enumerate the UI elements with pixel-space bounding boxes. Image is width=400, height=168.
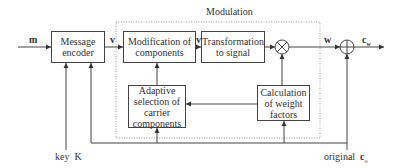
transformation-block: Transformation to signal	[201, 31, 265, 63]
signal-cw-label: cw	[362, 34, 371, 47]
original-label: original co	[324, 151, 368, 164]
modulation-group-label: Modulation	[206, 6, 253, 17]
block-diagram: Modulation Message encoder Modification …	[0, 0, 400, 168]
diagram-lines	[0, 0, 400, 168]
signal-v-label-1: v	[110, 34, 115, 45]
signal-m-label: m	[29, 34, 37, 45]
key-label: key K	[55, 151, 82, 162]
adaptive-selection-block: Adaptive selection of carrier components	[128, 85, 186, 128]
calculation-block: Calculation of weight factors	[257, 85, 310, 121]
signal-w-label: w	[324, 34, 331, 45]
signal-v-label-2: v	[196, 34, 201, 45]
message-encoder-block: Message encoder	[51, 31, 105, 63]
modification-block: Modification of components	[123, 31, 196, 63]
